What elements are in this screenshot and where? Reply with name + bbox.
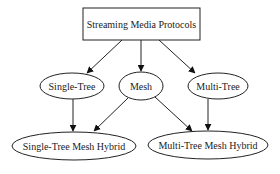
node-multi-tree-mesh-hybrid: Multi-Tree Mesh Hybrid bbox=[148, 131, 268, 159]
node-multi-tree: Multi-Tree bbox=[188, 73, 248, 99]
node-label: Single-Tree bbox=[49, 81, 96, 92]
node-streaming-media-protocols: Streaming Media Protocols bbox=[83, 8, 200, 40]
node-label: Multi-Tree Mesh Hybrid bbox=[158, 140, 257, 151]
edge-mesh-to-mt-hybrid bbox=[155, 97, 192, 131]
node-label: Single-Tree Mesh Hybrid bbox=[23, 141, 125, 152]
node-label: Mesh bbox=[130, 81, 152, 92]
edge-root-to-single-tree bbox=[87, 40, 122, 73]
node-single-tree-mesh-hybrid: Single-Tree Mesh Hybrid bbox=[12, 132, 136, 160]
node-label: Streaming Media Protocols bbox=[87, 19, 197, 30]
node-mesh: Mesh bbox=[119, 72, 163, 100]
node-label: Multi-Tree bbox=[196, 81, 240, 92]
edge-root-to-multi-tree bbox=[159, 40, 195, 73]
protocol-diagram: Streaming Media Protocols Single-Tree Me… bbox=[0, 0, 280, 174]
edge-mesh-to-st-hybrid bbox=[94, 98, 128, 131]
node-single-tree: Single-Tree bbox=[40, 73, 104, 99]
